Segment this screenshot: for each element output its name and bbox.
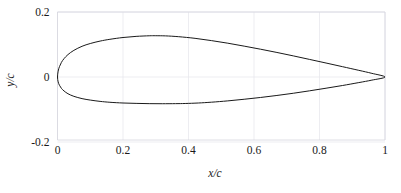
plot-background <box>0 0 401 193</box>
y-tick-label-0: -0.2 <box>31 136 49 148</box>
x-tick-label-2: 0.4 <box>181 144 196 156</box>
x-tick-label-0: 0 <box>55 144 61 156</box>
x-tick-label-5: 1 <box>382 144 388 156</box>
airfoil-plot-svg: 00.20.40.60.81 -0.200.2 x/c y/c <box>0 0 401 193</box>
x-tick-label-1: 0.2 <box>116 144 131 156</box>
y-axis-title: y/c <box>4 73 17 87</box>
x-axis-title: x/c <box>207 167 221 179</box>
y-tick-label-1: 0 <box>44 71 50 83</box>
airfoil-chart-figure: 00.20.40.60.81 -0.200.2 x/c y/c <box>0 0 401 193</box>
y-tick-label-2: 0.2 <box>35 6 50 18</box>
x-tick-label-3: 0.6 <box>247 144 262 156</box>
x-tick-label-4: 0.8 <box>312 144 327 156</box>
